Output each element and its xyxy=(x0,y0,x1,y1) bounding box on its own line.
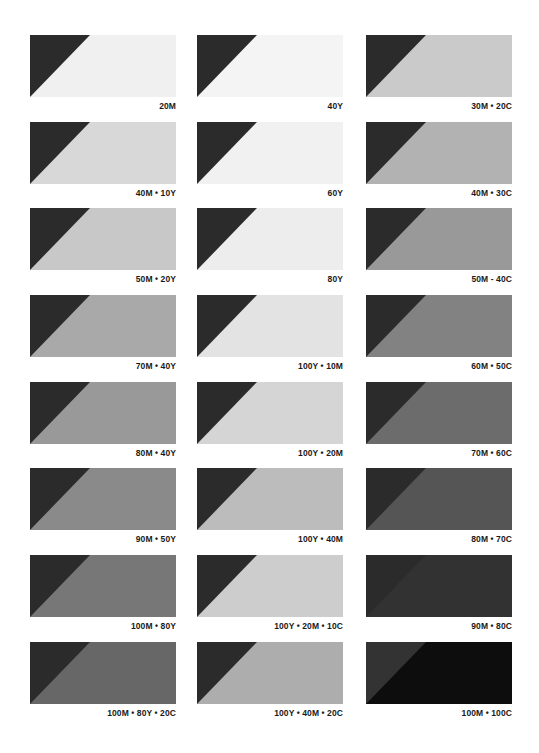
color-swatch xyxy=(30,642,176,704)
swatch-label: 30M • 20C xyxy=(471,101,512,111)
color-swatch xyxy=(197,468,343,530)
swatch-label: 50M • 20Y xyxy=(136,274,176,284)
color-swatch xyxy=(197,642,343,704)
swatch-label: 80Y xyxy=(328,274,343,284)
color-swatch xyxy=(366,382,512,444)
color-swatch xyxy=(30,555,176,617)
swatch-label: 90M • 50Y xyxy=(136,534,176,544)
swatch-card: 100Y • 40M • 20C xyxy=(197,642,345,724)
swatch-card: 100M • 80Y xyxy=(30,555,178,637)
swatch-card: 80M • 70C xyxy=(366,468,514,550)
color-swatch xyxy=(197,35,343,97)
color-swatch xyxy=(30,35,176,97)
color-swatch xyxy=(366,35,512,97)
swatch-label: 100M • 80Y • 20C xyxy=(107,708,176,718)
swatch-card: 40M • 10Y xyxy=(30,122,178,204)
swatch-card: 20M xyxy=(30,35,178,117)
swatch-card: 70M • 40Y xyxy=(30,295,178,377)
swatch-card: 50M - 40C xyxy=(366,208,514,290)
color-swatch xyxy=(366,555,512,617)
color-swatch xyxy=(366,468,512,530)
color-swatch xyxy=(197,122,343,184)
color-swatch xyxy=(30,468,176,530)
swatch-label: 100M • 100C xyxy=(462,708,512,718)
swatch-label: 80M • 40Y xyxy=(136,448,176,458)
color-swatch xyxy=(197,555,343,617)
color-swatch xyxy=(366,295,512,357)
swatch-card: 100Y • 10M xyxy=(197,295,345,377)
color-swatch xyxy=(197,295,343,357)
swatch-card: 90M • 50Y xyxy=(30,468,178,550)
swatch-label: 50M - 40C xyxy=(471,274,512,284)
swatch-card: 60Y xyxy=(197,122,345,204)
color-swatch xyxy=(30,382,176,444)
swatch-card: 100Y • 20M xyxy=(197,382,345,464)
color-swatch xyxy=(366,208,512,270)
color-swatch xyxy=(30,295,176,357)
swatch-label: 100Y • 20M xyxy=(298,448,343,458)
swatch-label: 100Y • 40M xyxy=(298,534,343,544)
color-swatch xyxy=(197,208,343,270)
color-swatch xyxy=(366,642,512,704)
swatch-card: 80Y xyxy=(197,208,345,290)
swatch-card: 50M • 20Y xyxy=(30,208,178,290)
color-swatch xyxy=(30,208,176,270)
swatch-label: 70M • 60C xyxy=(471,448,512,458)
swatch-label: 100Y • 10M xyxy=(298,361,343,371)
swatch-card: 60M • 50C xyxy=(366,295,514,377)
swatch-label: 40M • 10Y xyxy=(136,188,176,198)
swatch-label: 40M • 30C xyxy=(471,188,512,198)
color-swatch xyxy=(366,122,512,184)
swatch-label: 20M xyxy=(159,101,176,111)
swatch-label: 90M • 80C xyxy=(471,621,512,631)
color-swatch xyxy=(30,122,176,184)
swatch-label: 60M • 50C xyxy=(471,361,512,371)
swatch-label: 100Y • 20M • 10C xyxy=(274,621,343,631)
swatch-label: 80M • 70C xyxy=(471,534,512,544)
swatch-card: 100M • 100C xyxy=(366,642,514,724)
swatch-card: 100M • 80Y • 20C xyxy=(30,642,178,724)
swatch-card: 100Y • 20M • 10C xyxy=(197,555,345,637)
swatch-card: 40M • 30C xyxy=(366,122,514,204)
swatch-label: 70M • 40Y xyxy=(136,361,176,371)
swatch-label: 60Y xyxy=(328,188,343,198)
swatch-card: 100Y • 40M xyxy=(197,468,345,550)
color-swatch xyxy=(197,382,343,444)
swatch-label: 100Y • 40M • 20C xyxy=(274,708,343,718)
swatch-card: 70M • 60C xyxy=(366,382,514,464)
swatch-card: 90M • 80C xyxy=(366,555,514,637)
swatch-label: 40Y xyxy=(328,101,343,111)
swatch-card: 40Y xyxy=(197,35,345,117)
swatch-card: 30M • 20C xyxy=(366,35,514,117)
swatch-card: 80M • 40Y xyxy=(30,382,178,464)
swatch-label: 100M • 80Y xyxy=(131,621,176,631)
